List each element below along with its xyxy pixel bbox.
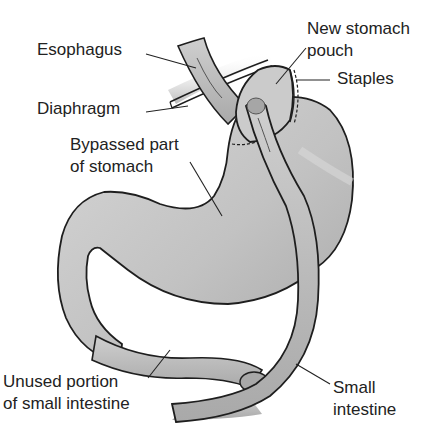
label-bypassed-stomach-line2: of stomach	[70, 157, 153, 176]
label-unused-intestine-line1: Unused portion	[3, 372, 118, 391]
label-esophagus: Esophagus	[37, 40, 122, 59]
label-staples: Staples	[337, 69, 394, 88]
label-unused-intestine-line2: of small intestine	[3, 394, 130, 413]
label-bypassed-stomach-line1: Bypassed part	[70, 135, 179, 154]
label-small-intestine-line2: intestine	[333, 400, 396, 419]
gastric-bypass-diagram: Esophagus Diaphragm Bypassed part of sto…	[0, 0, 440, 438]
leader-diaphragm	[146, 106, 188, 112]
label-new-pouch-line1: New stomach	[307, 19, 410, 38]
label-diaphragm: Diaphragm	[37, 99, 120, 118]
label-new-pouch-line2: pouch	[307, 41, 353, 60]
label-small-intestine-line1: Small	[333, 378, 376, 397]
leader-small-intestine	[296, 364, 330, 384]
